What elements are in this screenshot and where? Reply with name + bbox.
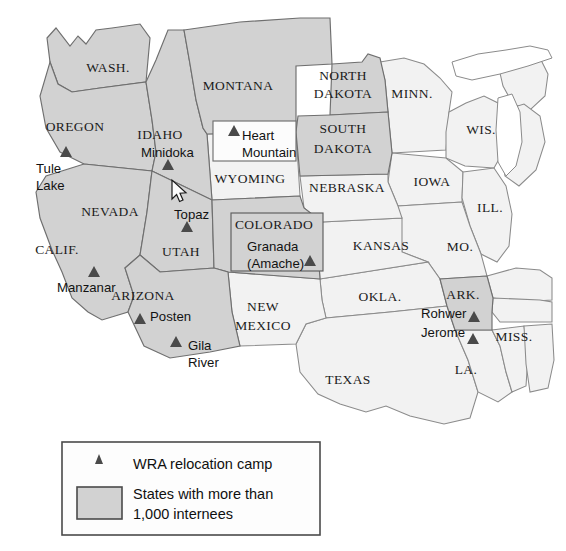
state-north-dakota [330, 54, 388, 115]
legend-label-shaded-states-line2: 1,000 internees [133, 506, 233, 522]
state-label-north-dakota-1: NORTH [319, 68, 367, 83]
state-label-nevada: NEVADA [81, 204, 139, 219]
state-label-okla: OKLA. [359, 289, 402, 304]
camp-label-tule-lake-line2: Lake [36, 178, 65, 193]
state-label-north-dakota-2: DAKOTA [314, 86, 372, 101]
state-washington [47, 24, 150, 92]
state-label-idaho: IDAHO [137, 127, 183, 142]
state-label-nebraska: NEBRASKA [309, 180, 385, 195]
state-label-la: LA. [455, 362, 478, 377]
state-label-mo: MO. [447, 239, 473, 254]
state-label-wyoming: WYOMING [214, 171, 285, 186]
state-label-utah: UTAH [162, 244, 200, 259]
state-label-kansas: KANSAS [353, 238, 409, 253]
state-arizona [125, 255, 240, 358]
camp-label-manzanar-line1: Manzanar [57, 280, 116, 295]
camp-label-granada-amache-line2: (Amache) [247, 256, 304, 271]
state-label-colorado: COLORADO [235, 217, 313, 232]
camp-label-heart-mountain-line2: Mountain [242, 145, 296, 160]
state-label-south-dakota-2: DAKOTA [314, 141, 372, 156]
camp-label-topaz-line1: Topaz [174, 207, 209, 222]
state-label-arizona: ARIZONA [111, 288, 175, 303]
state-label-new-mexico-1: NEW [247, 299, 279, 314]
state-label-wash: WASH. [86, 60, 130, 75]
state-label-wis: WIS. [466, 122, 496, 137]
state-label-montana: MONTANA [203, 78, 274, 93]
camp-label-jerome-line1: Jerome [421, 325, 465, 340]
state-label-south-dakota-1: SOUTH [319, 121, 366, 136]
legend-grey-swatch-icon [77, 487, 122, 519]
relocation-camp-map: TuleLakeMinidokaHeartMountainTopazGranad… [0, 0, 566, 551]
state-label-calif: CALIF. [35, 242, 79, 257]
state-label-oregon: OREGON [46, 119, 105, 134]
camp-label-heart-mountain-line1: Heart [242, 128, 275, 143]
camp-label-minidoka-line1: Minidoka [141, 145, 194, 160]
state-label-texas: TEXAS [325, 372, 371, 387]
camp-label-gila-river-line2: River [188, 355, 219, 370]
state-texas [296, 306, 478, 424]
camp-label-posten-line1: Posten [150, 309, 191, 324]
camp-label-granada-amache-line1: Granada [247, 239, 299, 254]
state-label-miss: MISS. [496, 329, 533, 344]
state-label-minn: MINN. [391, 86, 432, 101]
camp-label-gila-river-line1: Gila [188, 338, 212, 353]
camp-label-tule-lake-line1: Tule [36, 161, 61, 176]
state-kentucky-tennessee-sliver [487, 268, 552, 302]
us-map-graphic: TuleLakeMinidokaHeartMountainTopazGranad… [0, 0, 566, 551]
state-label-new-mexico-2: MEXICO [235, 318, 291, 333]
state-label-iowa: IOWA [414, 174, 451, 189]
camp-label-rohwer-line1: Rohwer [421, 306, 467, 321]
legend-label-shaded-states-line1: States with more than [133, 486, 273, 502]
legend-label-wra-camp: WRA relocation camp [133, 456, 272, 472]
state-tennessee-sliver [492, 298, 552, 322]
legend: WRA relocation camp States with more tha… [62, 442, 320, 535]
state-label-ill: ILL. [477, 200, 503, 215]
state-label-ark: ARK. [446, 287, 479, 302]
